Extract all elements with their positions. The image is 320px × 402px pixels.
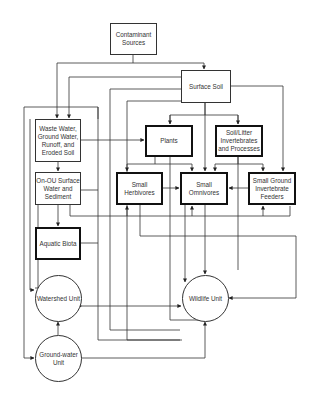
node-small-ground-invertebrate-feeders: Small Ground Invertebrate Feeders (248, 172, 296, 205)
node-small-omnivores: Small Omnivores (180, 172, 228, 205)
node-label: Soil/Litter Invertebrates and Processes (217, 129, 261, 153)
node-aquatic-biota: Aquatic Biota (35, 227, 81, 260)
node-groundwater-unit: Ground-water Unit (35, 335, 82, 382)
node-label: Waste Water, Ground Water, Runoff, and E… (36, 125, 80, 157)
node-contaminant-sources: Contaminant Sources (110, 23, 157, 55)
node-waste-water: Waste Water, Ground Water, Runoff, and E… (35, 119, 81, 162)
node-wildlife-unit: Wildlife Unit (182, 275, 229, 322)
node-label: On-OU Surface Water and Sediment (36, 177, 80, 201)
node-on-ou-surface-water: On-OU Surface Water and Sediment (35, 172, 81, 205)
node-label: Aquatic Biota (39, 240, 76, 248)
node-label: Small Ground Invertebrate Feeders (250, 177, 294, 201)
node-label: Small Herbivores (118, 181, 161, 197)
node-label: Watershed Unit (37, 295, 80, 303)
node-label: Surface Soil (189, 83, 223, 91)
node-label: Contaminant Sources (111, 31, 156, 47)
node-label: Small Omnivores (182, 181, 226, 197)
node-label: Ground-water Unit (36, 351, 81, 367)
node-plants: Plants (145, 125, 193, 157)
node-surface-soil: Surface Soil (181, 70, 231, 103)
node-watershed-unit: Watershed Unit (35, 275, 82, 322)
node-label: Plants (160, 137, 178, 145)
node-small-herbivores: Small Herbivores (116, 172, 163, 205)
node-soil-litter: Soil/Litter Invertebrates and Processes (215, 125, 263, 157)
node-label: Wildlife Unit (189, 295, 222, 303)
